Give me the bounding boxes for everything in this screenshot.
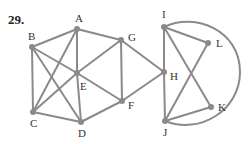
node-label-c: C <box>30 117 37 129</box>
node-c <box>30 109 36 115</box>
graph-labels: ABCDEFGHILKJ <box>28 8 226 139</box>
edge-g-h <box>121 40 164 72</box>
node-g <box>118 37 124 43</box>
edge-e-g <box>77 40 121 73</box>
node-j <box>162 118 168 124</box>
edge-c-d <box>33 112 81 122</box>
node-label-a: A <box>75 12 83 24</box>
node-label-g: G <box>128 31 136 43</box>
node-k <box>208 104 214 110</box>
node-label-d: D <box>78 127 86 139</box>
edge-i-l <box>164 27 208 43</box>
node-label-l: L <box>216 37 223 49</box>
edge-a-b <box>32 29 77 47</box>
node-label-b: B <box>28 30 35 42</box>
edge-b-c <box>32 47 33 112</box>
node-d <box>78 119 84 125</box>
edge-b-e <box>32 47 77 73</box>
node-label-i: I <box>162 8 166 20</box>
node-label-j: J <box>163 126 168 138</box>
node-l <box>205 40 211 46</box>
node-i <box>161 24 167 30</box>
node-label-k: K <box>218 101 226 113</box>
edge-g-f <box>121 40 122 101</box>
node-label-e: E <box>80 80 87 92</box>
edge-b-d <box>32 47 81 122</box>
edge-d-f <box>81 101 122 122</box>
node-label-h: H <box>170 70 178 82</box>
edge-f-h <box>122 72 164 101</box>
node-b <box>29 44 35 50</box>
node-a <box>74 26 80 32</box>
node-e <box>74 70 80 76</box>
edge-a-c <box>33 29 77 112</box>
node-h <box>161 69 167 75</box>
node-label-f: F <box>128 99 134 111</box>
node-f <box>119 98 125 104</box>
edge-i-k <box>164 27 211 107</box>
graph-diagram: ABCDEFGHILKJ <box>0 0 251 144</box>
edge-a-g <box>77 29 121 40</box>
edge-h-j <box>164 72 165 121</box>
